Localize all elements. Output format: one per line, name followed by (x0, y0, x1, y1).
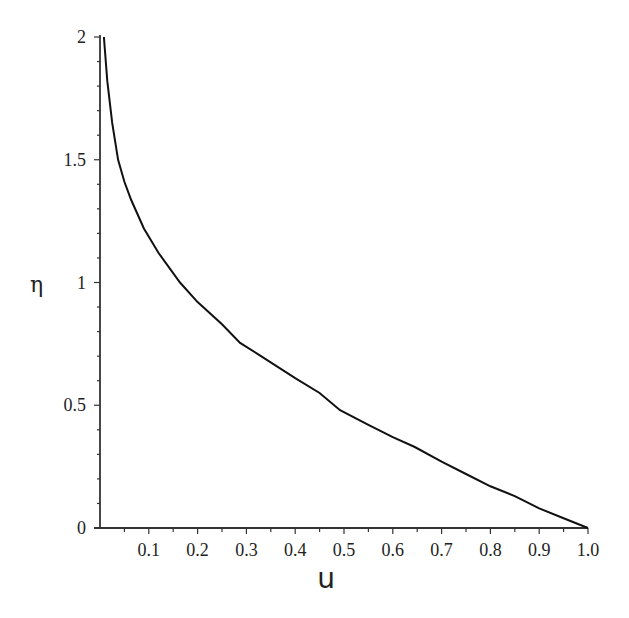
y-tick-label: 0 (77, 518, 86, 538)
x-tick-label: 0.8 (479, 540, 502, 560)
x-tick-label: 0.5 (333, 540, 356, 560)
x-tick-label: 0.2 (186, 540, 209, 560)
y-tick-label: 2 (77, 27, 86, 47)
line-chart: 00.511.520.10.20.30.40.50.60.70.80.91.0 … (0, 0, 629, 618)
y-axis-title: η (30, 272, 43, 297)
x-tick-label: 0.7 (430, 540, 453, 560)
x-axis-title: u (317, 562, 335, 595)
x-tick-label: 0.9 (528, 540, 551, 560)
y-tick-label: 1.5 (64, 150, 87, 170)
x-tick-label: 0.3 (235, 540, 258, 560)
axes (94, 35, 588, 528)
data-curve (104, 37, 588, 528)
x-tick-label: 0.4 (284, 540, 307, 560)
x-tick-label: 1.0 (577, 540, 600, 560)
ticks: 00.511.520.10.20.30.40.50.60.70.80.91.0 (64, 27, 600, 560)
y-tick-label: 1 (77, 273, 86, 293)
y-tick-label: 0.5 (64, 395, 87, 415)
x-tick-label: 0.6 (382, 540, 405, 560)
x-tick-label: 0.1 (138, 540, 161, 560)
